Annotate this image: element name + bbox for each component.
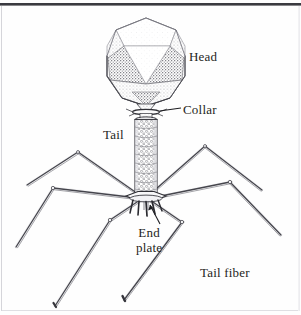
phage-head <box>107 18 185 106</box>
label-collar: Collar <box>183 103 217 118</box>
tail-fiber-mid-left <box>16 186 138 248</box>
label-tail-fiber: Tail fiber <box>200 266 250 281</box>
collar-leader-line <box>160 108 182 111</box>
label-head: Head <box>189 50 217 65</box>
label-end-plate-line2: plate <box>136 241 162 256</box>
tail-fiber-front-left <box>54 200 141 307</box>
phage-tail <box>135 117 157 196</box>
phage-illustration <box>0 0 301 315</box>
phage-diagram-figure: Head Collar Tail End plate Tail fiber <box>0 0 301 315</box>
phage-end-plate <box>126 192 166 217</box>
label-end-plate-line1: End <box>136 226 162 241</box>
label-end-plate: End plate <box>136 226 162 255</box>
tail-fiber-back-right <box>148 145 262 198</box>
label-tail: Tail <box>103 128 124 143</box>
